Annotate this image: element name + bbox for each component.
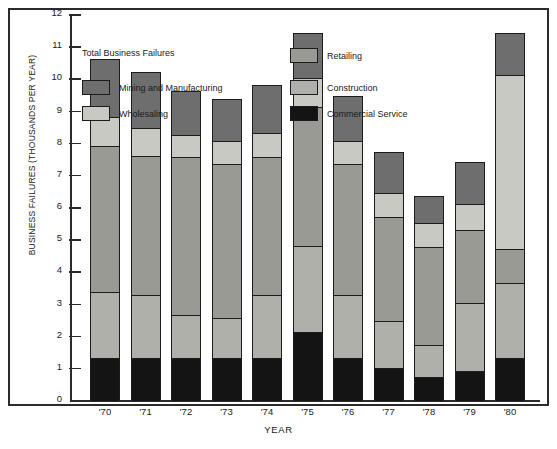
legend-swatch-commercial-icon: [290, 106, 318, 121]
legend-item-mining[interactable]: Mining and Manufacturing: [82, 80, 223, 95]
x-axis-label-76: '76: [328, 406, 368, 417]
legend-item-label: Construction: [327, 83, 378, 93]
bar-segment-construction: [253, 296, 281, 359]
bar-segment-wholesaling: [253, 134, 281, 158]
bar-segment-commercial: [91, 359, 119, 401]
bar-segment-construction: [334, 296, 362, 359]
bar-segment-retailing: [294, 108, 322, 246]
bar-segment-commercial: [132, 359, 160, 401]
y-tick-2: [69, 336, 81, 338]
bar-segment-retailing: [213, 165, 241, 319]
bar-segment-retailing: [375, 218, 403, 323]
y-tick-7: [69, 175, 81, 177]
y-tick-label-12: 12: [40, 7, 62, 18]
y-tick-label-10: 10: [40, 71, 62, 82]
chart-legend: Total Business Failures Mining and Manuf…: [78, 42, 498, 124]
bar-segment-construction: [172, 316, 200, 359]
bar-segment-retailing: [132, 157, 160, 297]
bar-segment-commercial: [456, 372, 484, 401]
y-tick-label-8: 8: [40, 136, 62, 147]
x-axis-title: YEAR: [0, 424, 557, 435]
y-axis-title: BUSINESS FAILURES (THOUSANDS PER YEAR): [27, 25, 37, 285]
bar-segment-construction: [132, 296, 160, 359]
y-tick-label-3: 3: [40, 297, 62, 308]
legend-swatch-retailing-icon: [290, 48, 318, 63]
y-tick-label-0: 0: [40, 393, 62, 404]
legend-item-label: Retailing: [327, 51, 362, 61]
x-axis-label-70: '70: [85, 406, 125, 417]
y-tick-1: [69, 368, 81, 370]
bar-segment-wholesaling: [496, 76, 524, 250]
bar-segment-mining: [375, 153, 403, 193]
bar-78[interactable]: [414, 196, 444, 400]
bar-segment-wholesaling: [456, 205, 484, 231]
bar-segment-wholesaling: [415, 224, 443, 248]
y-tick-label-6: 6: [40, 200, 62, 211]
y-tick-label-5: 5: [40, 232, 62, 243]
bar-segment-commercial: [375, 369, 403, 401]
x-axis-label-77: '77: [369, 406, 409, 417]
legend-item-wholesaling[interactable]: Wholesaling: [82, 106, 168, 121]
x-axis-label-74: '74: [247, 406, 287, 417]
bar-segment-construction: [415, 346, 443, 378]
y-tick-6: [69, 207, 81, 209]
legend-item-label: Wholesaling: [119, 109, 168, 119]
y-tick-label-4: 4: [40, 264, 62, 275]
bar-segment-commercial: [334, 359, 362, 401]
bar-segment-mining: [415, 197, 443, 224]
x-axis-label-80: '80: [490, 406, 530, 417]
x-axis-label-73: '73: [207, 406, 247, 417]
bar-segment-retailing: [415, 248, 443, 346]
y-tick-5: [69, 239, 81, 241]
bar-segment-wholesaling: [132, 129, 160, 156]
business-failures-chart: BUSINESS FAILURES (THOUSANDS PER YEAR) 0…: [0, 0, 557, 449]
bar-segment-construction: [375, 322, 403, 369]
bar-74[interactable]: [252, 85, 282, 400]
y-tick-label-9: 9: [40, 104, 62, 115]
bar-segment-wholesaling: [375, 194, 403, 218]
y-tick-12: [69, 14, 81, 16]
legend-item-label: Mining and Manufacturing: [119, 83, 223, 93]
legend-item-retailing[interactable]: Retailing: [290, 48, 362, 63]
y-tick-label-11: 11: [40, 39, 62, 50]
bar-segment-construction: [496, 284, 524, 360]
legend-item-label: Commercial Service: [327, 109, 408, 119]
bar-76[interactable]: [333, 96, 363, 400]
y-tick-label-1: 1: [40, 361, 62, 372]
bar-segment-wholesaling: [172, 136, 200, 159]
x-axis-label-75: '75: [288, 406, 328, 417]
y-tick-3: [69, 304, 81, 306]
bar-segment-mining: [496, 34, 524, 76]
bar-segment-retailing: [456, 231, 484, 305]
legend-swatch-wholesaling-icon: [82, 106, 110, 121]
y-tick-4: [69, 271, 81, 273]
bar-segment-construction: [456, 304, 484, 372]
bar-segment-retailing: [172, 158, 200, 316]
bar-segment-construction: [91, 293, 119, 359]
bar-segment-commercial: [294, 333, 322, 401]
y-tick-label-7: 7: [40, 168, 62, 179]
bar-79[interactable]: [455, 162, 485, 400]
x-axis-label-71: '71: [126, 406, 166, 417]
legend-title: Total Business Failures: [82, 48, 175, 58]
bar-72[interactable]: [171, 91, 201, 400]
bar-segment-construction: [213, 319, 241, 359]
bar-segment-commercial: [213, 359, 241, 401]
legend-item-commercial[interactable]: Commercial Service: [290, 106, 408, 121]
bar-segment-wholesaling: [213, 142, 241, 165]
legend-swatch-mining-icon: [82, 80, 110, 95]
bar-73[interactable]: [212, 99, 242, 400]
bar-80[interactable]: [495, 33, 525, 400]
bar-segment-retailing: [334, 165, 362, 297]
bar-segment-commercial: [415, 378, 443, 401]
bar-segment-mining: [456, 163, 484, 205]
legend-swatch-construction-icon: [290, 80, 318, 95]
bar-77[interactable]: [374, 152, 404, 400]
bar-segment-retailing: [496, 250, 524, 284]
bar-segment-retailing: [253, 158, 281, 296]
bar-segment-wholesaling: [334, 142, 362, 165]
legend-item-construction[interactable]: Construction: [290, 80, 378, 95]
x-axis-label-78: '78: [409, 406, 449, 417]
bar-segment-retailing: [91, 147, 119, 293]
x-axis-label-72: '72: [166, 406, 206, 417]
